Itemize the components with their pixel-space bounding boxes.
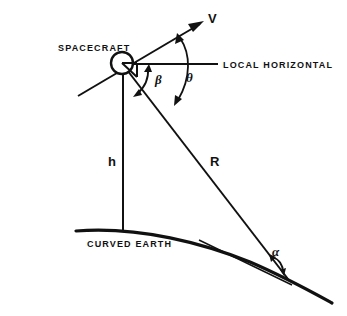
velocity-label: V [208,11,217,26]
spacecraft-geometry-diagram: SPACECRAFT LOCAL HORIZONTAL CURVED EARTH… [0,0,347,316]
slant-range-label: R [210,154,220,169]
theta-label: θ [186,70,193,85]
spacecraft-label: SPACECRAFT [58,43,130,53]
theta-angle-arc [178,38,188,100]
beta-arc-arrowhead-top [144,64,152,72]
altitude-label: h [108,154,116,169]
alpha-label: α [272,244,280,259]
curved-earth-label: CURVED EARTH [87,239,172,249]
local-horizontal-label: LOCAL HORIZONTAL [223,60,333,70]
diagram-canvas: SPACECRAFT LOCAL HORIZONTAL CURVED EARTH… [0,0,347,316]
beta-label: β [154,72,162,87]
